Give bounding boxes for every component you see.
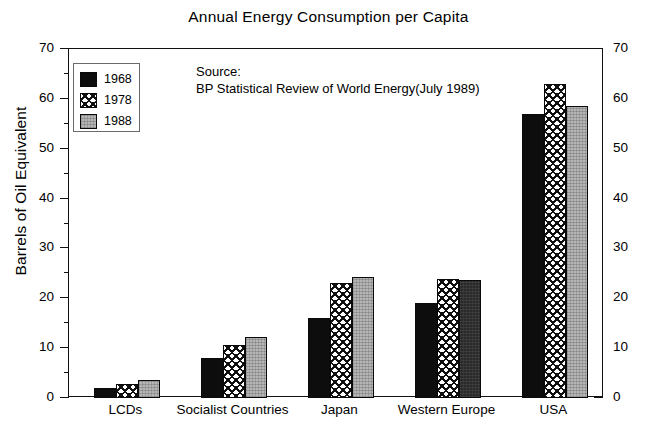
y-tick-label-left: 60 <box>18 91 54 105</box>
y-tick-label-left: 70 <box>18 41 54 55</box>
y-tick-label-right: 50 <box>613 141 649 155</box>
y-tick-label-right: 70 <box>613 41 649 55</box>
legend-item-1988: 1988 <box>80 111 139 131</box>
y-tick-mark-left <box>60 397 69 398</box>
y-tick-label-left: 40 <box>18 191 54 205</box>
legend-item-1968: 1968 <box>80 69 139 89</box>
bar-1988 <box>459 280 481 398</box>
source-line-2: BP Statistical Review of World Energy(Ju… <box>196 81 479 98</box>
bar-1978 <box>437 279 459 398</box>
source-note: Source: BP Statistical Review of World E… <box>196 64 479 97</box>
bar-group <box>308 49 374 398</box>
bar-1968 <box>522 114 544 398</box>
y-tick-label-left: 20 <box>18 290 54 304</box>
legend-label-1988: 1988 <box>104 114 132 128</box>
bar-1988 <box>245 337 267 398</box>
y-tick-label-right: 10 <box>613 340 649 354</box>
y-tick-label-right: 40 <box>613 191 649 205</box>
bar-1988 <box>138 380 160 398</box>
legend-label-1978: 1978 <box>104 93 132 107</box>
y-tick-label-left: 30 <box>18 240 54 254</box>
bar-1978 <box>116 384 138 398</box>
bar-1978 <box>223 345 245 398</box>
chart-canvas: Annual Energy Consumption per Capita Bar… <box>0 0 657 440</box>
y-tick-label-right: 30 <box>613 240 649 254</box>
bar-1968 <box>94 388 116 398</box>
bar-1968 <box>201 358 223 398</box>
y-tick-label-right: 20 <box>613 290 649 304</box>
legend: 1968 1978 1988 <box>73 63 140 132</box>
legend-label-1968: 1968 <box>104 72 132 86</box>
bar-1968 <box>308 318 330 398</box>
bar-series-container <box>69 49 604 398</box>
legend-item-1978: 1978 <box>80 90 139 110</box>
bar-1988 <box>566 106 588 398</box>
bar-group <box>522 49 588 398</box>
chart-title: Annual Energy Consumption per Capita <box>0 8 657 26</box>
legend-swatch-1978 <box>80 93 97 108</box>
x-axis-label: USA <box>474 402 634 417</box>
bar-1968 <box>415 303 437 398</box>
legend-swatch-1988 <box>80 114 97 129</box>
y-tick-label-left: 50 <box>18 141 54 155</box>
bar-1978 <box>330 283 352 398</box>
legend-swatch-1968 <box>80 72 97 87</box>
source-line-1: Source: <box>196 64 479 81</box>
bar-group <box>201 49 267 398</box>
bar-1978 <box>544 84 566 398</box>
y-tick-label-left: 10 <box>18 340 54 354</box>
y-tick-label-right: 60 <box>613 91 649 105</box>
plot-area <box>68 48 603 397</box>
bar-1988 <box>352 277 374 398</box>
bar-group <box>415 49 481 398</box>
